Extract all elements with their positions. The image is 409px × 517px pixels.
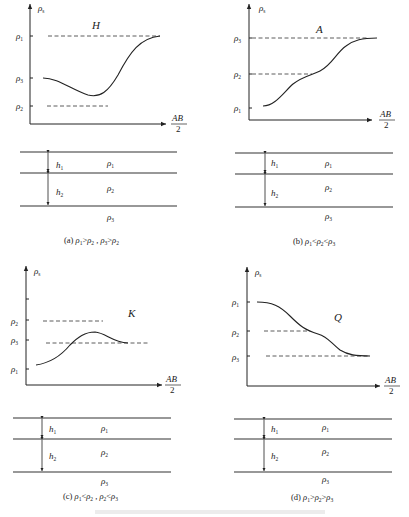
svg-text:ρ2: ρ2 <box>100 447 108 458</box>
svg-text:ρ1: ρ1 <box>10 364 18 375</box>
svg-text:ρs: ρs <box>258 3 265 14</box>
svg-text:ρ1: ρ1 <box>233 103 241 114</box>
svg-text:2: 2 <box>170 385 175 395</box>
panel-c-chart: ρs AB 2 ρ2 ρ3 ρ1 K <box>10 266 181 395</box>
svg-text:h2: h2 <box>49 451 57 462</box>
x-axis-label: AB 2 <box>165 374 181 395</box>
curve-label: Q <box>334 311 342 323</box>
panel-a-layers: h1 h2 ρ1 ρ2 ρ3 <box>20 152 177 223</box>
svg-text:ρ3: ρ3 <box>10 335 18 346</box>
y-axis-label: ρs <box>37 3 44 14</box>
panel-b: ρs AB 2 ρ3 ρ2 ρ1 A h1 h2 ρ1 <box>233 3 395 247</box>
sounding-curve-types-diagram: ρs AB 2 ρ1 ρ3 ρ2 H h1 h2 ρ1 <box>0 0 409 517</box>
svg-text:ρ3: ρ3 <box>231 352 239 363</box>
svg-text:h2: h2 <box>56 187 64 198</box>
tick-rho2: ρ2 <box>15 101 23 112</box>
svg-text:AB: AB <box>384 375 396 385</box>
panel-b-chart: ρs AB 2 ρ3 ρ2 ρ1 A <box>233 3 395 130</box>
q-type-curve <box>257 302 370 356</box>
tick-rho1: ρ1 <box>15 31 23 42</box>
svg-text:h1: h1 <box>49 424 57 435</box>
svg-text:ρ1: ρ1 <box>324 158 332 169</box>
caption-b: (b) ρ1<ρ2<ρ3 <box>293 236 335 247</box>
svg-text:2: 2 <box>384 120 389 130</box>
svg-text:ρ1: ρ1 <box>321 422 329 433</box>
svg-text:h2: h2 <box>271 188 279 199</box>
svg-text:h1: h1 <box>271 158 279 169</box>
k-type-curve <box>36 332 128 365</box>
svg-text:h2: h2 <box>271 451 279 462</box>
svg-text:ρ1: ρ1 <box>231 297 239 308</box>
svg-text:h1: h1 <box>56 160 64 171</box>
svg-text:ρ3: ρ3 <box>100 476 108 487</box>
panel-b-layers: h1 h2 ρ1 ρ2 ρ3 <box>235 153 393 222</box>
curve-label: H <box>91 19 101 31</box>
tick-rho3: ρ3 <box>15 73 23 84</box>
svg-text:ρ2: ρ2 <box>233 69 241 80</box>
panel-a-chart: ρs AB 2 ρ1 ρ3 ρ2 H <box>15 3 187 134</box>
h-type-curve <box>43 36 160 96</box>
svg-text:2: 2 <box>389 386 394 396</box>
svg-text:ρ1: ρ1 <box>100 423 108 434</box>
x-axis-label: AB 2 <box>384 375 400 396</box>
panel-d-layers: h1 h2 ρ1 ρ2 ρ3 <box>234 419 392 485</box>
svg-text:AB: AB <box>171 113 183 123</box>
faded-figure-caption <box>95 510 325 514</box>
svg-text:ρ3: ρ3 <box>321 474 329 485</box>
svg-text:AB: AB <box>165 374 177 384</box>
x-axis-label: AB 2 <box>171 113 187 134</box>
caption-d: (d) ρ1>ρ2>ρ3 <box>291 492 333 503</box>
svg-text:AB: AB <box>379 109 391 119</box>
svg-text:ρ1: ρ1 <box>106 158 114 169</box>
svg-text:ρ3: ρ3 <box>106 212 114 223</box>
svg-text:ρ2: ρ2 <box>321 446 329 457</box>
svg-text:ρ2: ρ2 <box>10 316 18 327</box>
panel-d-chart: ρs AB 2 ρ1 ρ2 ρ3 Q <box>231 267 400 396</box>
svg-text:ρ3: ρ3 <box>324 211 332 222</box>
curve-label: K <box>127 307 136 319</box>
svg-text:ρ2: ρ2 <box>106 183 114 194</box>
panel-c-layers: h1 h2 ρ1 ρ2 ρ3 <box>13 418 171 487</box>
curve-label: A <box>315 23 323 35</box>
caption-a: (a) ρ1>ρ2 , ρ3>ρ2 <box>64 235 119 246</box>
panel-d: ρs AB 2 ρ1 ρ2 ρ3 Q h1 h2 ρ1 <box>231 267 400 503</box>
panel-a: ρs AB 2 ρ1 ρ3 ρ2 H h1 h2 ρ1 <box>15 3 187 246</box>
svg-text:ρ2: ρ2 <box>324 182 332 193</box>
svg-text:ρs: ρs <box>33 266 40 277</box>
svg-text:h1: h1 <box>271 424 279 435</box>
a-type-curve <box>263 38 377 106</box>
svg-text:ρs: ρs <box>254 267 261 278</box>
svg-text:ρ2: ρ2 <box>231 327 239 338</box>
svg-text:ρ3: ρ3 <box>233 33 241 44</box>
x-axis-label: AB 2 <box>379 109 395 130</box>
panel-c: ρs AB 2 ρ2 ρ3 ρ1 K h1 h2 <box>10 266 181 502</box>
svg-text:2: 2 <box>176 124 181 134</box>
caption-c: (c) ρ1<ρ2 , ρ2<ρ3 <box>63 491 118 502</box>
